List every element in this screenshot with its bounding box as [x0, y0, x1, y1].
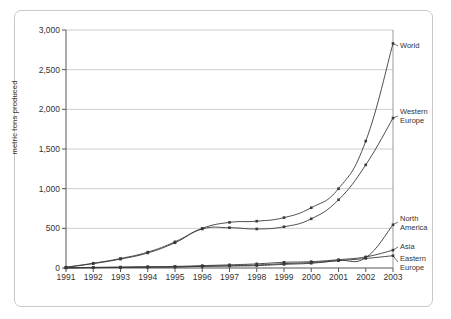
data-point-marker	[283, 216, 286, 219]
data-point-marker	[119, 258, 122, 261]
series-line	[66, 225, 393, 268]
y-tick-label: 500	[18, 223, 60, 233]
y-tick-label: 1,500	[18, 144, 60, 154]
series-line	[66, 43, 393, 267]
series-label-eastern-europe: EasternEurope	[400, 255, 426, 272]
y-tick-label: 3,000	[18, 25, 60, 35]
x-tick-label: 1998	[247, 272, 266, 282]
series-label-north-america: NorthAmerica	[400, 215, 428, 232]
x-tick-label: 1991	[57, 272, 76, 282]
data-point-marker	[146, 266, 149, 269]
data-point-marker	[310, 261, 313, 264]
data-point-marker	[255, 264, 258, 267]
series-line	[66, 118, 393, 267]
x-tick-label: 1992	[84, 272, 103, 282]
data-point-marker	[337, 187, 340, 190]
y-tick-marks	[62, 30, 66, 268]
x-axis-tick-labels: 1991199219931994199519961997199819992000…	[0, 272, 451, 288]
data-point-marker	[92, 262, 95, 265]
x-tick-label: 2003	[384, 272, 403, 282]
data-point-marker	[228, 264, 231, 267]
y-tick-label: 2,500	[18, 65, 60, 75]
data-point-marker	[255, 228, 258, 231]
x-tick-label: 2001	[329, 272, 348, 282]
series-label-world: World	[400, 42, 419, 51]
data-point-marker	[337, 198, 340, 201]
data-point-marker	[201, 228, 204, 231]
series-world	[65, 42, 395, 268]
data-point-marker	[65, 267, 68, 270]
data-point-marker	[364, 164, 367, 167]
data-point-marker	[283, 225, 286, 228]
label-leader-lines	[393, 43, 398, 262]
data-point-marker	[119, 266, 122, 269]
x-tick-label: 2000	[302, 272, 321, 282]
data-point-marker	[174, 266, 177, 269]
data-point-marker	[310, 218, 313, 221]
y-tick-label: 2,000	[18, 104, 60, 114]
data-point-marker	[174, 241, 177, 244]
data-point-marker	[364, 257, 367, 260]
figure-canvas: 05001,0001,5002,0002,5003,000 1991199219…	[0, 0, 451, 319]
data-point-marker	[255, 220, 258, 223]
data-series-group	[65, 42, 395, 269]
x-tick-label: 1995	[166, 272, 185, 282]
data-point-marker	[201, 265, 204, 268]
data-point-marker	[92, 266, 95, 269]
leader-line	[393, 247, 398, 250]
x-tick-label: 2002	[356, 272, 375, 282]
data-point-marker	[228, 226, 231, 229]
series-north-america	[65, 223, 395, 269]
data-point-marker	[283, 262, 286, 265]
series-label-western-europe: WesternEurope	[400, 108, 428, 125]
series-label-asia: Asia	[400, 243, 415, 252]
leader-line	[393, 222, 398, 225]
x-tick-label: 1996	[193, 272, 212, 282]
leader-line	[393, 256, 398, 262]
x-tick-label: 1997	[220, 272, 239, 282]
data-point-marker	[310, 206, 313, 209]
data-point-marker	[146, 252, 149, 255]
gridlines	[66, 30, 393, 228]
x-tick-label: 1999	[275, 272, 294, 282]
data-point-marker	[228, 221, 231, 224]
x-tick-label: 1993	[111, 272, 130, 282]
y-tick-label: 1,000	[18, 184, 60, 194]
x-tick-label: 1994	[138, 272, 157, 282]
data-point-marker	[337, 259, 340, 262]
data-point-marker	[364, 140, 367, 143]
y-axis-title: metric tons produced	[10, 58, 19, 178]
series-western-europe	[65, 117, 395, 269]
